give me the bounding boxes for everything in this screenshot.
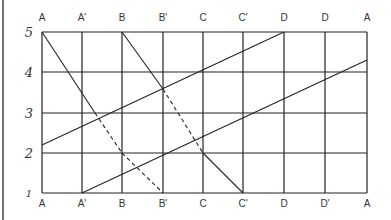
dashed-line-0 (95, 113, 122, 153)
bottom-label-8: A (364, 198, 371, 209)
bottom-label-2: B (119, 198, 126, 209)
solid-line-2 (203, 153, 243, 193)
y-label-1: 1 (26, 188, 32, 199)
top-label-6: D (280, 12, 287, 23)
grid (42, 32, 367, 193)
top-label-1: A' (78, 12, 87, 23)
solid-line-4 (82, 60, 367, 193)
bottom-label-3: B' (159, 198, 168, 209)
top-label-7: D (321, 12, 328, 23)
bottom-label-5: C' (238, 198, 247, 209)
top-label-0: A (39, 12, 46, 23)
solid-line-1 (122, 32, 163, 89)
y-label-2: 2 (24, 146, 33, 161)
labels: A A' B B' C C' D D A A A' B B' C C' D D'… (24, 12, 371, 209)
y-label-5: 5 (25, 25, 33, 40)
bottom-label-7: D' (320, 198, 329, 209)
y-label-4: 4 (24, 65, 33, 80)
bottom-label-4: C (199, 198, 206, 209)
bottom-label-6: D (280, 198, 287, 209)
dashed-line-1 (163, 89, 203, 153)
top-label-4: C (199, 12, 206, 23)
top-label-2: B (119, 12, 126, 23)
y-label-3: 3 (25, 106, 33, 121)
top-label-5: C' (238, 12, 247, 23)
torus-unfolding-diagram: A A' B B' C C' D D A A A' B B' C C' D D'… (0, 0, 391, 220)
dashed-line-2 (122, 153, 163, 193)
top-label-8: A (364, 12, 371, 23)
bottom-label-0: A (39, 198, 46, 209)
top-label-3: B' (159, 12, 168, 23)
bottom-label-1: A' (78, 198, 87, 209)
